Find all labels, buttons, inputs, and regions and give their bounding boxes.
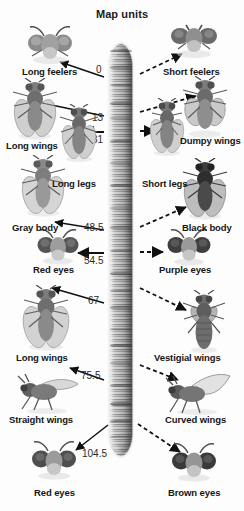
trait-label-vestigial-wings: Vestigial wings [154, 352, 221, 363]
fly-brown-eyes [166, 442, 222, 482]
chromosome-band [110, 344, 132, 347]
chromosome-band [110, 162, 132, 164]
chromosome-band [110, 66, 132, 69]
fly-red-eyes-upper [32, 229, 84, 265]
trait-label-long-wings-67: Long wings [16, 352, 68, 363]
chromosome-band [110, 290, 132, 292]
chromosome-band [110, 272, 132, 275]
chromosome-band [110, 184, 132, 187]
trait-label-purple-eyes: Purple eyes [159, 264, 211, 275]
trait-label-brown-eyes: Brown eyes [168, 487, 220, 498]
chromosome-band [110, 84, 132, 86]
chromosome-band [110, 140, 132, 143]
fly-long-wings-lower [16, 285, 76, 351]
chromosome-container [108, 44, 134, 456]
chromosome-band [110, 117, 132, 119]
map-unit-67: 67 [88, 295, 99, 306]
map-unit-0: 0 [96, 64, 102, 75]
chromosome-band [110, 436, 132, 438]
map-unit-104-5: 104.5 [82, 448, 107, 459]
chromosome-band [110, 420, 132, 423]
fly-straight-wings [12, 372, 82, 414]
trait-label-curved-wings: Curved wings [165, 414, 226, 425]
trait-label-long-wings-13: Long wings [6, 140, 58, 151]
chromosome-band [110, 362, 132, 364]
chromosome-band [110, 250, 132, 252]
chromosome-band [110, 402, 132, 406]
chromosome-band [110, 306, 132, 309]
chromosome-band [110, 328, 132, 330]
fly-black-body [176, 158, 234, 220]
trait-label-short-feelers: Short feelers [163, 66, 220, 77]
chromosome-band [110, 102, 132, 105]
trait-label-red-eyes-545: Red eyes [33, 264, 74, 275]
chromosome-band [110, 50, 132, 52]
trait-label-long-feelers: Long feelers [22, 66, 77, 77]
trait-label-straight-wings: Straight wings [9, 414, 73, 425]
trait-label-gray-body: Gray body [12, 222, 58, 233]
fly-long-feelers [22, 26, 78, 64]
trait-label-long-legs: Long legs [52, 178, 96, 189]
page-title: Map units [0, 8, 244, 20]
fly-red-eyes-lower [26, 440, 82, 480]
map-unit-54-5: 54.5 [84, 255, 103, 266]
chromosome-band [110, 207, 132, 209]
fly-purple-eyes [162, 228, 216, 266]
fly-short-legs [144, 98, 190, 156]
trait-label-dumpy-wings: Dumpy wings [180, 135, 241, 146]
gene-linkage-map-diagram: Map units [0, 0, 244, 511]
chromosome-band [110, 226, 132, 229]
trait-label-red-eyes-1045: Red eyes [34, 487, 75, 498]
fly-long-legs [56, 104, 102, 162]
map-unit-48-5: 48.5 [84, 222, 103, 233]
trait-label-short-legs: Short legs [142, 178, 187, 189]
trait-label-black-body: Black body [182, 222, 232, 233]
fly-vestigial-wings [178, 290, 230, 354]
chromosome-band [110, 384, 132, 387]
fly-curved-wings [160, 372, 234, 416]
map-unit-75-5: 75.5 [81, 370, 100, 381]
fly-short-feelers [166, 20, 222, 58]
